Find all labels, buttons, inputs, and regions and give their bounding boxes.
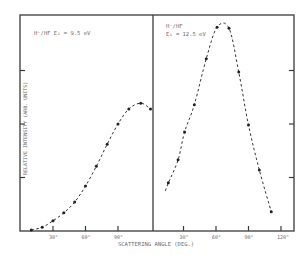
y-axis-label: RELATIVE INTENSITY (ARB. UNITS): [22, 82, 28, 175]
data-point: [95, 165, 98, 168]
data-point: [52, 219, 55, 222]
scattering-chart: 30°60°90°30°60°90°120° H⁻/HF E₁ = 9.5 eV…: [0, 0, 308, 255]
data-point: [127, 108, 130, 111]
data-point: [149, 108, 152, 111]
data-point: [62, 211, 65, 214]
x-tick-label: 60°: [212, 234, 221, 240]
y-ticks: [20, 71, 294, 178]
data-point: [270, 210, 273, 213]
x-tick-label: 60°: [82, 234, 91, 240]
data-point: [167, 181, 170, 184]
curve-9-5-ev: [31, 103, 150, 230]
x-ticks: 30°60°90°30°60°90°120°: [49, 226, 289, 240]
right-panel-title-line2: E₁ = 12.5 eV: [166, 31, 206, 37]
data-point: [183, 131, 186, 134]
data-point: [247, 124, 250, 127]
data-point: [41, 226, 44, 229]
curve-12-5-ev: [165, 23, 271, 212]
data-point: [139, 102, 142, 105]
data-point: [106, 143, 109, 146]
data-point: [177, 158, 180, 161]
x-tick-label: 30°: [49, 234, 58, 240]
x-axis-label: SCATTERING ANGLE (DEG.): [118, 241, 194, 247]
data-curves: [30, 23, 273, 231]
data-point: [84, 185, 87, 188]
data-point: [216, 26, 219, 29]
data-point: [228, 27, 231, 30]
data-point: [30, 228, 33, 231]
data-point: [117, 123, 120, 126]
plot-frame: [20, 15, 294, 231]
data-point: [258, 169, 261, 172]
right-panel-title-line1: H⁻/HF: [166, 23, 183, 29]
data-point: [237, 71, 240, 74]
outer-frame: [20, 15, 294, 231]
x-tick-label: 90°: [245, 234, 254, 240]
x-tick-label: 120°: [277, 234, 289, 240]
data-point: [205, 57, 208, 60]
data-point: [73, 201, 76, 204]
data-point: [193, 103, 196, 106]
left-panel-title: H⁻/HF E₁ = 9.5 eV: [34, 30, 91, 36]
x-tick-label: 30°: [180, 234, 189, 240]
x-tick-label: 90°: [114, 234, 123, 240]
